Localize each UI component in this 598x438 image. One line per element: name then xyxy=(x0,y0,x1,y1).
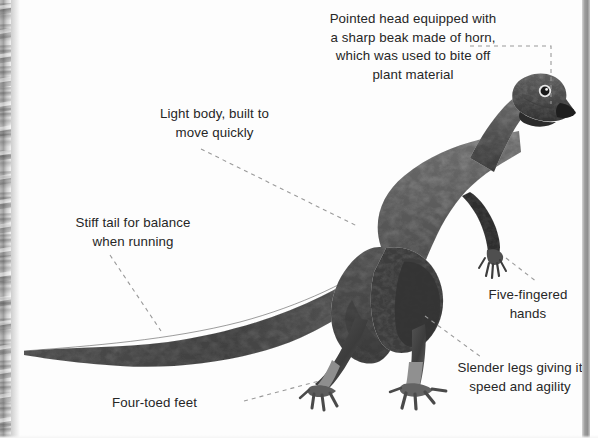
scanned-page: Pointed head equipped with a sharp beak … xyxy=(0,0,598,438)
five-fingered-hands-label: Five-fingered hands xyxy=(466,286,590,323)
page-spine-strip xyxy=(0,0,11,438)
four-toed-feet-label: Four-toed feet xyxy=(112,394,252,413)
dinosaur-arm-and-hand xyxy=(462,192,506,278)
page-spine-shadow xyxy=(11,0,20,438)
slender-legs-label: Slender legs giving it speed and agility xyxy=(442,359,598,396)
stiff-tail-label: Stiff tail for balance when running xyxy=(50,214,216,251)
right-margin-bar xyxy=(582,0,590,438)
light-body-label: Light body, built to move quickly xyxy=(131,105,298,142)
pointed-head-label: Pointed head equipped with a sharp beak … xyxy=(300,10,526,84)
right-page-edge xyxy=(590,0,598,438)
